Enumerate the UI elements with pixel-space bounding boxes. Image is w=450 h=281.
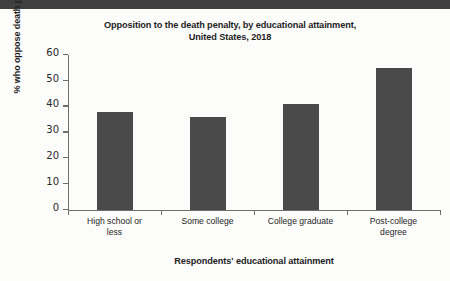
plot-area: 0102030405060 <box>68 55 440 210</box>
bar <box>97 112 133 210</box>
x-axis-category-line: Post-college <box>347 216 440 227</box>
chart-title-line-1: Opposition to the death penalty, by educ… <box>55 19 405 31</box>
x-axis-category-label: Post-collegedegree <box>347 216 440 238</box>
y-axis-tick-label: 30 <box>46 124 59 135</box>
y-axis-tick-label: 60 <box>46 47 59 58</box>
x-axis-tick <box>347 210 348 215</box>
chart-figure: Opposition to the death penalty, by educ… <box>0 0 450 281</box>
x-axis-category-label: High school orless <box>68 216 161 238</box>
y-axis-tick-label: 10 <box>46 176 59 187</box>
x-axis-tick <box>440 210 441 215</box>
x-axis-category-line: Some college <box>161 216 254 227</box>
x-axis-category-label: Some college <box>161 216 254 227</box>
bar <box>190 117 226 210</box>
y-axis-tick-label: 50 <box>46 73 59 84</box>
y-axis-tick: 20 <box>63 157 68 158</box>
x-axis-title: Respondents' educational attainment <box>68 256 440 266</box>
y-axis-tick: 10 <box>63 183 68 184</box>
x-axis-tick <box>161 210 162 215</box>
chart-title-line-2: United States, 2018 <box>55 31 405 43</box>
y-axis-title: % who oppose death penalty <box>12 0 22 108</box>
y-axis-tick-label: 40 <box>46 98 59 109</box>
bar <box>376 68 412 210</box>
y-axis-tick: 40 <box>63 105 68 106</box>
x-axis-category-line: less <box>68 227 161 238</box>
x-axis-tick <box>254 210 255 215</box>
y-axis-tick-label: 0 <box>53 202 59 213</box>
x-axis-category-line: High school or <box>68 216 161 227</box>
x-axis-tick <box>68 210 69 215</box>
top-banner-bar <box>0 0 450 9</box>
y-axis-title-wrapper: % who oppose death penalty <box>14 50 28 212</box>
y-axis-tick: 50 <box>63 80 68 81</box>
x-axis-category-label: College graduate <box>254 216 347 227</box>
bar <box>283 104 319 210</box>
x-axis-category-line: College graduate <box>254 216 347 227</box>
y-axis-tick: 30 <box>63 131 68 132</box>
y-axis-tick: 60 <box>63 54 68 55</box>
y-axis-tick-label: 20 <box>46 150 59 161</box>
chart-title: Opposition to the death penalty, by educ… <box>55 19 405 43</box>
x-axis-category-line: degree <box>347 227 440 238</box>
